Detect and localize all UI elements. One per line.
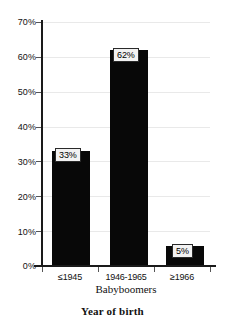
x-axis-group-label: Babyboomers <box>42 283 210 295</box>
x-axis-line <box>34 265 216 267</box>
x-axis-category-label: ≥1966 <box>154 272 210 283</box>
gridline <box>42 22 210 23</box>
bar-1946-1965 <box>110 50 148 266</box>
y-axis-tick-label: 50% <box>2 87 36 97</box>
y-axis-tick-label: 30% <box>2 157 36 167</box>
y-axis-tick-label: 70% <box>2 17 36 27</box>
y-axis-tick-label: 0% <box>2 261 36 271</box>
bar-value-label: 62% <box>113 48 139 62</box>
bar-1945-and-earlier <box>52 151 90 266</box>
y-axis-tick-label: 60% <box>2 52 36 62</box>
plot-area: 33% 62% 5% <box>42 22 210 266</box>
x-axis-category-label: 1946-1965 <box>98 272 154 283</box>
y-axis-tick-label: 20% <box>2 192 36 202</box>
chart-figure: 70% 60% 50% 40% 30% 20% 10% 0% 33% 62% 5… <box>0 0 225 327</box>
y-axis-tick-label: 40% <box>2 122 36 132</box>
bar-value-label: 5% <box>172 244 193 258</box>
y-axis-labels: 70% 60% 50% 40% 30% 20% 10% 0% <box>0 0 36 327</box>
y-axis-line <box>41 20 43 267</box>
x-axis-tick-mark <box>210 267 211 272</box>
bar-value-label: 33% <box>55 148 81 162</box>
y-axis-tick-label: 10% <box>2 227 36 237</box>
x-axis-category-label: ≤1945 <box>42 272 98 283</box>
x-axis-title: Year of birth <box>0 305 225 317</box>
